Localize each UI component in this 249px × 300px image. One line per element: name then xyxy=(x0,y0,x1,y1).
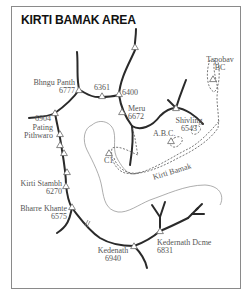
peak-label-pating-pithwaro: Pating Pithwaro xyxy=(20,124,53,140)
ridge-lines xyxy=(29,29,204,268)
camp-label-tapobav-bc: Tapobav BC xyxy=(206,56,234,72)
camp-label-abc: A.B.C. xyxy=(153,130,175,138)
peak-label-kedernath-dome: Kedernath Dcme 6831 xyxy=(157,239,211,255)
peak-elevation: 6777 xyxy=(27,87,75,95)
peak-label-6904: 6904 xyxy=(35,115,51,123)
peak-elevation: 6672 xyxy=(128,113,145,121)
peak-label-meru: Meru 6672 xyxy=(128,105,145,121)
peak-label-6400: 6400 xyxy=(122,89,138,97)
peak-label-bhngu-panth: Bhngu Panth 6777 xyxy=(27,79,75,95)
peak-icon xyxy=(57,142,64,148)
peak-label-bharre-khante: Bharre Khante 6575 xyxy=(14,205,67,221)
peak-elevation: 6575 xyxy=(14,213,67,221)
glacier-outline xyxy=(84,125,221,212)
peak-icon xyxy=(76,87,83,93)
peak-elevation: 6940 xyxy=(95,255,131,263)
peak-elevation: 6270 xyxy=(12,188,62,196)
peak-name-line2: Pithwaro xyxy=(20,132,53,140)
camp-name-line2: BC xyxy=(206,64,234,72)
peak-icon xyxy=(99,93,106,99)
peak-icon xyxy=(132,44,139,50)
peak-icon xyxy=(63,183,70,189)
peak-label-kirti-stambh: Kirti Stambh 6270 xyxy=(12,180,62,196)
peak-label-6361: 6361 xyxy=(94,84,110,92)
peak-elevation: 6831 xyxy=(157,247,211,255)
camp-label-c1: C1 xyxy=(104,157,113,165)
peak-label-kedenath: Kedenath 6940 xyxy=(95,247,131,263)
peak-icon xyxy=(57,131,64,137)
